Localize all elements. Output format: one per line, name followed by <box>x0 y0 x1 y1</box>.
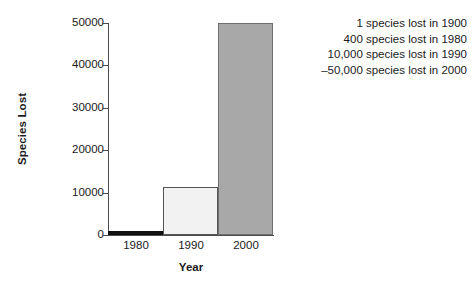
y-tick-label: 0 <box>42 229 104 241</box>
y-tick-label: 10000 <box>42 187 104 199</box>
bar-chart-figure: Species Lost 50000 40000 30000 20000 100… <box>0 0 475 292</box>
x-tick-label-1990: 1990 <box>163 239 219 251</box>
plot-area <box>108 23 273 235</box>
annotation-list: 1 species lost in 1900 400 species lost … <box>262 16 467 78</box>
annotation-line: 400 species lost in 1980 <box>262 32 467 48</box>
y-tick-label: 50000 <box>42 17 104 29</box>
x-tick-label-2000: 2000 <box>218 239 274 251</box>
y-axis-title-text: Species Lost <box>16 93 28 165</box>
y-tick-label: 20000 <box>42 144 104 156</box>
annotation-line: –50,000 species lost in 2000 <box>262 63 467 79</box>
annotation-line: 10,000 species lost in 1990 <box>262 47 467 63</box>
x-axis-line <box>108 235 274 236</box>
annotation-line: 1 species lost in 1900 <box>262 16 467 32</box>
bar-1990 <box>163 187 218 235</box>
y-axis-title: Species Lost <box>13 23 31 235</box>
y-axis-tick-labels: 50000 40000 30000 20000 10000 0 <box>38 0 104 292</box>
bar-1980 <box>108 231 163 235</box>
x-axis-title: Year <box>108 261 274 273</box>
y-tick-label: 40000 <box>42 60 104 72</box>
y-tick-label: 30000 <box>42 102 104 114</box>
x-tick-label-1980: 1980 <box>108 239 164 251</box>
